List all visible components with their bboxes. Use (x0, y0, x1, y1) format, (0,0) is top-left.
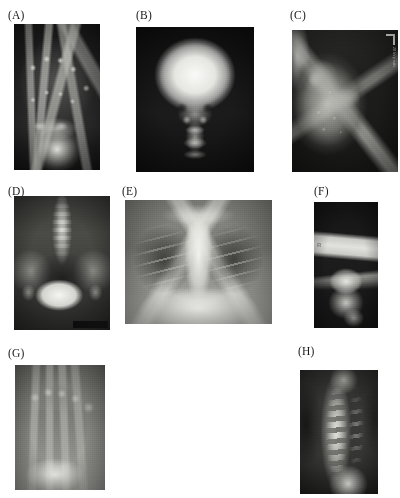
panel-d-annotation-strip (73, 321, 108, 328)
panel-h-radiograph-cervical-spine[interactable] (300, 370, 378, 494)
panel-c-mammogram-breast[interactable]: 28 kVp mAs (292, 30, 398, 172)
panel-h-spinous-process-detail (300, 370, 378, 494)
laterality-marker-l-icon (386, 34, 395, 45)
panel-f-label: (F) (314, 186, 329, 198)
panel-f-radiograph-ankle[interactable]: R (314, 202, 378, 328)
panel-a-joint-detail (14, 24, 100, 170)
panel-b-radiograph-skull[interactable] (136, 27, 254, 172)
panel-e-rib-detail (125, 200, 272, 324)
panel-b-facial-detail (136, 27, 254, 172)
panel-g-label: (G) (8, 348, 25, 360)
panel-g-radiograph-foot[interactable] (15, 365, 105, 490)
panel-a-label: (A) (8, 10, 25, 22)
panel-c-technique-annotation: 28 kVp mAs (392, 47, 396, 67)
laterality-marker-r-icon: R (317, 242, 321, 248)
panel-h-label: (H) (298, 346, 315, 358)
panel-c-tissue-detail (292, 30, 398, 172)
figure-plate: (A) (B) (C) 28 kVp mAs (D) (0, 0, 400, 498)
panel-a-radiograph-hand[interactable] (14, 24, 100, 170)
panel-f-tibia-fibula-detail (314, 202, 378, 328)
panel-g-metatarsal-detail (15, 365, 105, 490)
panel-d-radiograph-pelvis-cystogram[interactable] (14, 196, 110, 330)
panel-c-label: (C) (290, 10, 306, 22)
panel-b-label: (B) (136, 10, 152, 22)
panel-e-radiograph-chest[interactable] (125, 200, 272, 324)
panel-e-label: (E) (122, 186, 137, 198)
panel-d-lumbar-spine-detail (14, 196, 110, 330)
